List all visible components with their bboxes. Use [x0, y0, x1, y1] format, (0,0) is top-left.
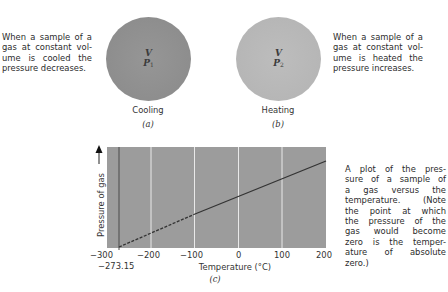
arrow-up-icon — [96, 145, 103, 153]
x-tick-label: −100 — [180, 250, 203, 260]
panel-c-letter: (c) — [195, 274, 235, 284]
x-tick-label: −200 — [137, 250, 160, 260]
y-axis-label: Pressure of gas — [96, 165, 106, 245]
panel-c-line: zero.) — [345, 258, 446, 268]
panel-c-line: the point at which — [345, 206, 446, 216]
panel-c-line: gas would become — [345, 226, 446, 236]
x-tick-label: 200 — [316, 250, 332, 260]
x-tick-label: 100 — [274, 250, 290, 260]
panel-c-line: sure of a sample of — [345, 174, 446, 184]
panel-c-line: a gas versus the — [345, 185, 446, 195]
x-tick-label: −300 — [90, 250, 113, 260]
x-axis-label: Temperature (°C) — [185, 262, 285, 272]
panel-c-line: ature of absolute — [345, 247, 446, 257]
panel-c-description: A plot of the pres- sure of a sample of … — [345, 164, 446, 268]
x-tick-label: 0 — [236, 250, 241, 260]
plot-area — [107, 147, 326, 248]
panel-c-line: temperature. (Note — [345, 195, 446, 205]
panel-c-line: the pressure of the — [345, 216, 446, 226]
panel-c-line: A plot of the pres- — [345, 164, 446, 174]
panel-c-line: zero is the temper- — [345, 237, 446, 247]
absolute-zero-label: −273.15 — [98, 261, 134, 271]
